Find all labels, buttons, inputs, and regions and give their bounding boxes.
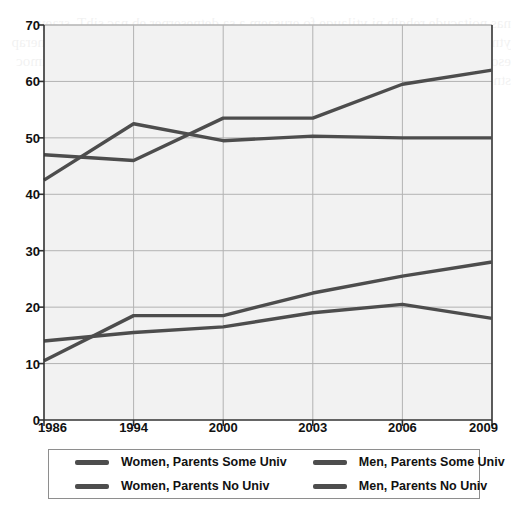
x-axis-tick-labels: 198619942000200320062009 <box>0 420 521 444</box>
x-axis-tick-label: 1986 <box>38 420 98 435</box>
legend-item[interactable]: Women, Parents Some Univ <box>49 455 287 469</box>
y-axis-tick-label: 20 <box>14 300 40 315</box>
legend-line-swatch <box>313 460 347 465</box>
chart-legend: Women, Parents Some UnivMen, Parents Som… <box>48 449 480 499</box>
legend-item[interactable]: Men, Parents No Univ <box>287 479 505 493</box>
y-axis-tick-label: 70 <box>14 18 40 33</box>
y-axis-tick-label: 50 <box>14 130 40 145</box>
x-axis-tick-label: 2000 <box>193 420 253 435</box>
chart-canvas <box>0 0 521 445</box>
legend-item-label: Men, Parents Some Univ <box>359 455 505 469</box>
plot-area: 010203040506070 <box>0 0 521 445</box>
y-axis-tick-label: 10 <box>14 356 40 371</box>
chart-figure: 010203040506070 198619942000200320062009… <box>0 0 521 512</box>
legend-line-swatch <box>75 460 109 465</box>
legend-line-swatch <box>313 484 347 489</box>
y-axis-tick-label: 40 <box>14 187 40 202</box>
legend-item[interactable]: Men, Parents Some Univ <box>287 455 505 469</box>
y-axis-tick-label: 60 <box>14 74 40 89</box>
legend-item[interactable]: Women, Parents No Univ <box>49 479 287 493</box>
x-axis-tick-label: 2006 <box>372 420 432 435</box>
x-axis-tick-label: 2009 <box>438 420 498 435</box>
y-axis-tick-labels: 010203040506070 <box>14 0 40 445</box>
x-axis-tick-label: 2003 <box>283 420 343 435</box>
legend-item-label: Women, Parents No Univ <box>121 479 269 493</box>
x-axis-tick-label: 1994 <box>104 420 164 435</box>
plot-background <box>44 25 492 420</box>
legend-item-label: Men, Parents No Univ <box>359 479 488 493</box>
y-axis-tick-label: 30 <box>14 243 40 258</box>
legend-line-swatch <box>75 484 109 489</box>
legend-item-label: Women, Parents Some Univ <box>121 455 287 469</box>
